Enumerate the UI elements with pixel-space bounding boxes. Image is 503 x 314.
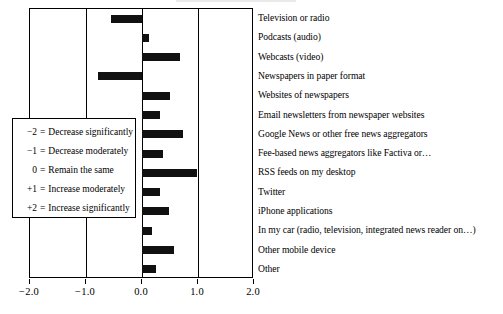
bar-row xyxy=(30,9,252,28)
x-axis-tick xyxy=(85,279,86,284)
category-label: Other mobile device xyxy=(258,239,335,258)
x-axis-tick xyxy=(141,279,142,284)
x-axis-tick xyxy=(29,279,30,284)
category-label: Fee-based news aggregators like Factiva … xyxy=(258,143,431,162)
bar-row xyxy=(30,28,252,47)
legend-key: +1 xyxy=(17,180,37,199)
category-label: In my car (radio, television, integrated… xyxy=(258,220,476,239)
x-axis-tick-label: 0.0 xyxy=(121,286,161,297)
x-axis-tick-label: −2.0 xyxy=(9,286,49,297)
x-axis-tick xyxy=(197,279,198,284)
legend-box: −2=Decrease significantly−1=Decrease mod… xyxy=(12,118,136,218)
legend-row: +1=Increase moderately xyxy=(17,180,129,199)
bar xyxy=(142,169,197,177)
legend-key: −1 xyxy=(17,142,37,161)
x-axis-tick xyxy=(253,279,254,284)
legend-description: Remain the same xyxy=(48,161,113,180)
bar xyxy=(142,34,149,42)
legend-row: +2=Increase significantly xyxy=(17,199,129,218)
bar xyxy=(142,227,152,235)
category-label: Webcasts (video) xyxy=(258,47,323,66)
legend-row: −1=Decrease moderately xyxy=(17,142,129,161)
legend-row: 0=Remain the same xyxy=(17,161,129,180)
bar-row xyxy=(30,67,252,86)
bar xyxy=(142,111,160,119)
bar xyxy=(142,130,183,138)
bar-chart-figure: −2.0−1.00.01.02.0 −2=Decrease significan… xyxy=(0,0,503,314)
bar xyxy=(98,72,142,80)
bar xyxy=(142,265,156,273)
legend-description: Decrease moderately xyxy=(48,142,128,161)
bar xyxy=(142,53,180,61)
category-label: RSS feeds on my desktop xyxy=(258,162,355,181)
x-axis-tick-label: 1.0 xyxy=(177,286,217,297)
bar xyxy=(142,150,163,158)
x-axis-tick-label: 2.0 xyxy=(233,286,273,297)
legend-description: Increase moderately xyxy=(48,180,125,199)
legend-equals-sign: = xyxy=(37,142,48,161)
category-label: Twitter xyxy=(258,182,285,201)
category-label-list: Television or radioPodcasts (audio)Webca… xyxy=(258,8,503,278)
legend-equals-sign: = xyxy=(37,180,48,199)
category-label: Podcasts (audio) xyxy=(258,27,321,46)
bar xyxy=(142,92,170,100)
category-label: Google News or other free news aggregato… xyxy=(258,124,427,143)
legend-equals-sign: = xyxy=(37,123,48,142)
legend-key: 0 xyxy=(17,161,37,180)
legend-equals-sign: = xyxy=(37,199,48,218)
category-label: Newspapers in paper format xyxy=(258,66,365,85)
category-label: Television or radio xyxy=(258,8,329,27)
cropped-title-remnant xyxy=(176,0,296,5)
legend-key: −2 xyxy=(17,123,37,142)
legend-row: −2=Decrease significantly xyxy=(17,123,129,142)
legend-key: +2 xyxy=(17,199,37,218)
bar-row xyxy=(30,240,252,259)
bar-row xyxy=(30,48,252,67)
category-label: Other xyxy=(258,259,280,278)
legend-description: Decrease significantly xyxy=(48,123,133,142)
category-label: Email newsletters from newspaper website… xyxy=(258,104,424,123)
legend-equals-sign: = xyxy=(37,161,48,180)
bar xyxy=(111,15,142,23)
bar xyxy=(142,246,174,254)
bar-row xyxy=(30,260,252,279)
category-label: iPhone applications xyxy=(258,201,332,220)
legend-description: Increase significantly xyxy=(48,199,130,218)
x-axis-tick-label: −1.0 xyxy=(65,286,105,297)
bar xyxy=(142,188,160,196)
bar-row xyxy=(30,86,252,105)
bar xyxy=(142,207,169,215)
bar-row xyxy=(30,221,252,240)
category-label: Websites of newspapers xyxy=(258,85,349,104)
